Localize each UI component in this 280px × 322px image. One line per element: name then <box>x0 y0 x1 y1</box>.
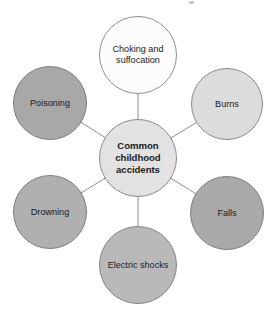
center-node-common-childhood-accidents[interactable]: Common childhood accidents <box>99 119 177 197</box>
spoke-to-burns <box>170 122 197 138</box>
node-electric-shocks[interactable]: Electric shocks <box>99 226 177 304</box>
node-label-falls: Falls <box>213 208 240 219</box>
childhood-accidents-diagram: Common childhood accidents Choking and s… <box>0 0 280 322</box>
center-node-label: Common childhood accidents <box>111 140 164 177</box>
node-label-drowning: Drowning <box>27 207 73 218</box>
node-burns[interactable]: Burns <box>191 68 263 140</box>
node-drowning[interactable]: Drowning <box>13 175 87 249</box>
node-choking-and-suffocation[interactable]: Choking and suffocation <box>99 16 177 94</box>
spoke-to-drowning <box>81 178 106 193</box>
spoke-to-falls <box>170 178 196 194</box>
node-label-electric-shocks: Electric shocks <box>104 260 173 271</box>
node-label-choking-and-suffocation: Choking and suffocation <box>108 44 167 65</box>
node-label-burns: Burns <box>211 99 243 110</box>
node-poisoning[interactable]: Poisoning <box>13 66 87 140</box>
node-label-poisoning: Poisoning <box>26 98 74 109</box>
node-falls[interactable]: Falls <box>190 176 264 250</box>
scan-artifact-speck <box>189 1 194 4</box>
spoke-to-poisoning <box>81 122 106 138</box>
